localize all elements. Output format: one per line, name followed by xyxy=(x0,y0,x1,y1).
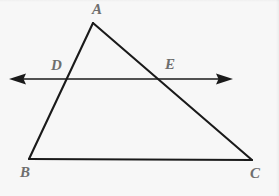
vertex-label-b: B xyxy=(20,165,30,180)
right-arrowhead-icon xyxy=(216,74,233,85)
vertex-label-a: A xyxy=(92,2,102,17)
triangle-side-bc xyxy=(29,159,252,160)
triangle-side-ac xyxy=(93,23,252,160)
vertex-label-e: E xyxy=(165,57,175,72)
vertex-label-c: C xyxy=(250,166,260,181)
triangle-side-ab xyxy=(29,23,93,159)
left-arrowhead-icon xyxy=(9,74,26,85)
vertex-label-d: D xyxy=(51,58,62,73)
geometry-figure: A B C D E xyxy=(0,0,279,196)
geometry-canvas xyxy=(0,0,279,196)
